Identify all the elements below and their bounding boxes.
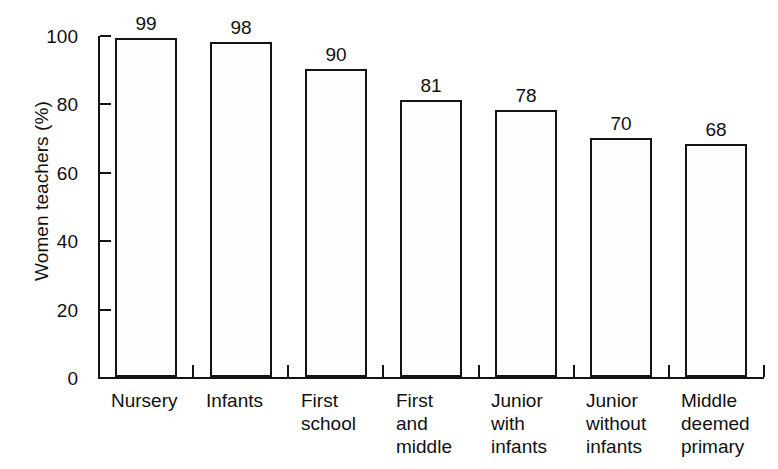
- bar-value-label: 78: [481, 86, 571, 105]
- x-tick-3: [382, 365, 384, 377]
- bar-chart-figure: Women teachers (%) 020406080100 NurseryI…: [0, 0, 778, 469]
- category-label: Middle deemed primary: [681, 389, 750, 458]
- y-tick-label-60: 60: [30, 164, 78, 183]
- bar: [495, 110, 557, 377]
- x-tick-0: [98, 365, 100, 377]
- category-label: First school: [301, 389, 356, 435]
- category-label: Junior with infants: [491, 389, 547, 458]
- bar-value-label: 81: [386, 76, 476, 95]
- bar-value-label: 98: [196, 18, 286, 37]
- bar-value-label: 68: [671, 120, 761, 139]
- x-tick-2: [287, 365, 289, 377]
- category-label: Nursery: [111, 389, 178, 412]
- bar-value-label: 90: [291, 45, 381, 64]
- bar: [305, 69, 367, 377]
- y-tick-20: [100, 309, 111, 311]
- y-tick-label-40: 40: [30, 232, 78, 251]
- bar: [685, 144, 747, 377]
- y-tick-100: [100, 35, 111, 37]
- x-tick-1: [192, 365, 194, 377]
- bar-value-label: 70: [576, 114, 666, 133]
- bar-value-label: 99: [101, 14, 191, 33]
- y-axis-line: [98, 36, 100, 379]
- y-tick-60: [100, 172, 111, 174]
- category-label: Junior without infants: [586, 389, 646, 458]
- bar: [400, 100, 462, 377]
- bar: [590, 138, 652, 377]
- bar: [115, 38, 177, 377]
- category-label: First and middle: [396, 389, 452, 458]
- y-tick-80: [100, 103, 111, 105]
- category-label: Infants: [206, 389, 263, 412]
- y-tick-0: [100, 377, 111, 379]
- y-tick-label-80: 80: [30, 95, 78, 114]
- x-tick-5: [573, 365, 575, 377]
- y-tick-label-0: 0: [30, 369, 78, 388]
- x-tick-4: [478, 365, 480, 377]
- bar: [210, 42, 272, 377]
- x-tick-7: [763, 365, 765, 377]
- x-axis-line: [98, 377, 764, 379]
- y-tick-40: [100, 240, 111, 242]
- y-tick-label-20: 20: [30, 301, 78, 320]
- y-tick-label-100: 100: [30, 27, 78, 46]
- x-tick-6: [668, 365, 670, 377]
